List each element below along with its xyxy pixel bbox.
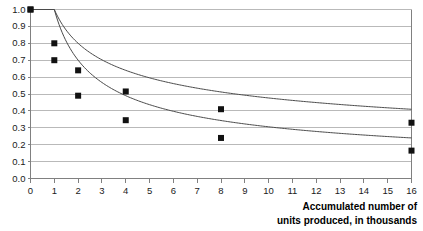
y-tick-label-0.3: 0.3 — [0, 123, 26, 133]
x-tick-label-16: 16 — [397, 186, 423, 196]
y-tick-label-0.7: 0.7 — [0, 55, 26, 65]
x-axis-caption-line-1: Accumulated number of — [277, 200, 417, 214]
plot-area — [0, 0, 423, 231]
y-tick-label-0.4: 0.4 — [0, 106, 26, 116]
data-point-marker — [28, 7, 34, 13]
data-point-marker — [409, 120, 415, 126]
y-tick-label-0.6: 0.6 — [0, 72, 26, 82]
data-point-marker — [218, 106, 224, 112]
data-point-marker — [51, 57, 57, 63]
data-point-marker — [75, 67, 81, 73]
learning-curve-chart: 0.00.10.20.30.40.50.60.70.80.91.0 012345… — [0, 0, 423, 231]
data-point-marker — [123, 88, 129, 94]
data-point-marker — [409, 148, 415, 154]
data-point-marker — [51, 40, 57, 46]
x-axis-caption: Accumulated number of units produced, in… — [277, 200, 417, 227]
y-tick-label-0.2: 0.2 — [0, 140, 26, 150]
curve-series-1 — [31, 10, 412, 138]
data-point-marker — [75, 93, 81, 99]
data-point-marker — [218, 135, 224, 141]
y-tick-label-0.9: 0.9 — [0, 21, 26, 31]
y-tick-label-0: 0.0 — [0, 174, 26, 184]
y-tick-label-0.1: 0.1 — [0, 157, 26, 167]
y-tick-label-0.5: 0.5 — [0, 89, 26, 99]
x-axis-caption-line-2: units produced, in thousands — [277, 214, 417, 228]
data-point-marker — [123, 117, 129, 123]
y-tick-label-1: 1.0 — [0, 5, 26, 15]
y-tick-label-0.8: 0.8 — [0, 38, 26, 48]
